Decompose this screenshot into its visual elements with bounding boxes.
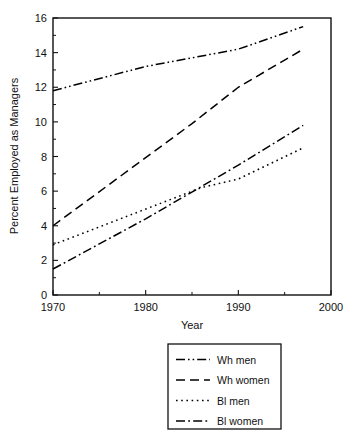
y-tick-label: 14 (35, 47, 47, 59)
y-axis-title: Percent Employed as Managers (8, 77, 20, 234)
legend-label-wh-men: Wh men (217, 354, 256, 366)
y-tick-label: 0 (41, 289, 47, 301)
series-line-bl-men (53, 148, 303, 245)
data-series-group (53, 27, 303, 269)
x-tick-label: 1990 (226, 301, 250, 313)
chart-figure: 0246810121416 1970198019902000 Year Perc… (0, 0, 359, 442)
y-axis-ticks: 0246810121416 (35, 12, 58, 301)
legend-label-bl-women: Bl women (217, 415, 263, 427)
y-tick-label: 8 (41, 151, 47, 163)
x-axis-title: Year (181, 319, 204, 331)
y-tick-label: 2 (41, 254, 47, 266)
legend-label-bl-men: Bl men (217, 395, 250, 407)
y-tick-label: 12 (35, 81, 47, 93)
x-tick-label: 1970 (41, 301, 65, 313)
x-tick-label: 2000 (319, 301, 343, 313)
line-chart-svg: 0246810121416 1970198019902000 Year Perc… (0, 0, 359, 442)
legend-label-wh-women: Wh women (217, 374, 270, 386)
y-tick-label: 6 (41, 185, 47, 197)
y-tick-label: 16 (35, 12, 47, 24)
y-tick-label: 4 (41, 220, 47, 232)
y-tick-label: 10 (35, 116, 47, 128)
plot-frame (53, 18, 331, 295)
series-line-bl-women (53, 125, 303, 269)
series-line-wh-men (53, 27, 303, 91)
x-axis-ticks: 1970198019902000 (41, 290, 343, 313)
legend: Wh menWh womenBl menBl women (168, 344, 281, 429)
x-tick-label: 1980 (133, 301, 157, 313)
